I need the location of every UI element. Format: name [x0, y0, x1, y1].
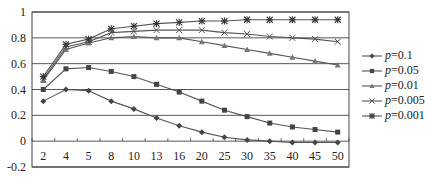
- star-marker: [130, 23, 137, 30]
- square-marker: [335, 130, 340, 135]
- legend-label-value: =0.001: [391, 108, 425, 123]
- star-marker: [108, 25, 115, 32]
- square-marker: [109, 69, 114, 74]
- diamond-marker: [289, 139, 295, 145]
- x-tick-label: 25: [218, 149, 230, 163]
- y-tick-label: 0.4: [11, 83, 26, 97]
- triangle-icon: [362, 81, 382, 91]
- diamond-marker: [40, 98, 46, 104]
- square-marker: [267, 121, 272, 126]
- star-marker: [85, 36, 92, 43]
- diamond-marker: [63, 87, 69, 93]
- diamond-marker: [369, 53, 374, 58]
- x-tick-label: 50: [332, 149, 344, 163]
- x-tick-label: 40: [286, 149, 298, 163]
- x-tick-label: 2: [40, 149, 46, 163]
- square-marker: [290, 124, 295, 129]
- star-marker: [266, 16, 273, 23]
- x-tick-label: 30: [241, 149, 253, 163]
- y-tick-label: 0: [20, 134, 26, 148]
- star-marker: [198, 18, 205, 25]
- legend: p=0.1p=0.05p=0.01p=0.005p=0.001: [362, 48, 425, 123]
- x-tick-label: 8: [108, 149, 114, 163]
- legend-item: p=0.005: [362, 93, 425, 108]
- legend-item: p=0.001: [362, 108, 425, 123]
- square-marker: [199, 99, 204, 104]
- diamond-marker: [108, 98, 114, 104]
- x-axis-tick-labels: 245810131620253035404550: [40, 149, 343, 163]
- star-marker: [176, 19, 183, 26]
- diamond-marker: [267, 138, 273, 144]
- x-tick-label: 45: [309, 149, 321, 163]
- y-tick-label: -0.2: [7, 160, 26, 174]
- diamond-marker: [312, 139, 318, 145]
- square-marker: [86, 65, 91, 70]
- series-lines: [40, 16, 341, 145]
- star-marker: [40, 73, 47, 80]
- square-marker: [370, 68, 374, 72]
- star-icon: [362, 111, 382, 121]
- x-tick-label: 35: [264, 149, 276, 163]
- diamond-marker: [154, 115, 160, 121]
- legend-item: p=0.1: [362, 48, 425, 63]
- gridlines: [32, 12, 349, 167]
- y-tick-label: 1: [20, 5, 26, 19]
- square-marker: [177, 90, 182, 95]
- series-line: [43, 68, 337, 133]
- star-marker: [312, 16, 319, 23]
- legend-item: p=0.05: [362, 63, 425, 78]
- diamond-marker: [221, 134, 227, 140]
- legend-item: p=0.01: [362, 78, 425, 93]
- star-marker: [62, 41, 69, 48]
- series-p-0-05: [41, 65, 340, 135]
- legend-label-value: =0.005: [391, 93, 425, 108]
- x-tick-label: 4: [63, 149, 69, 163]
- square-icon: [362, 66, 382, 76]
- x-tick-label: 10: [128, 149, 140, 163]
- star-marker: [369, 112, 375, 118]
- legend-label-value: =0.01: [391, 78, 419, 93]
- star-marker: [244, 16, 251, 23]
- square-marker: [222, 108, 227, 113]
- square-marker: [154, 82, 159, 87]
- series-p-0-01: [40, 34, 340, 83]
- y-axis-tick-labels: 10.80.60.40.20-0.2: [7, 5, 26, 174]
- diamond-marker: [199, 129, 205, 135]
- x-tick-label: 13: [151, 149, 163, 163]
- star-marker: [221, 18, 228, 25]
- diamond-marker: [176, 123, 182, 129]
- y-tick-label: 0.2: [11, 108, 26, 122]
- x-tick-label: 16: [173, 149, 185, 163]
- diamond-marker: [131, 106, 137, 112]
- diamond-marker: [244, 137, 250, 143]
- series-p-0-005: [40, 27, 340, 82]
- legend-label-value: =0.05: [391, 63, 419, 78]
- square-marker: [245, 114, 250, 119]
- series-line: [43, 90, 337, 143]
- x-tick-label: 5: [86, 149, 92, 163]
- square-marker: [313, 127, 318, 132]
- square-marker: [63, 66, 68, 71]
- series-p-0-1: [40, 87, 340, 146]
- star-marker: [334, 16, 341, 23]
- diamond-marker: [335, 139, 341, 145]
- diamond-marker: [86, 88, 92, 94]
- star-marker: [289, 16, 296, 23]
- legend-label-value: =0.1: [391, 48, 413, 63]
- square-marker: [131, 74, 136, 79]
- diamond-icon: [362, 51, 382, 61]
- x-tick-label: 20: [196, 149, 208, 163]
- y-tick-label: 0.6: [11, 57, 26, 71]
- series-p-0-001: [40, 16, 341, 80]
- x-icon: [362, 96, 382, 106]
- square-marker: [41, 87, 46, 92]
- star-marker: [153, 20, 160, 27]
- y-tick-label: 0.8: [11, 31, 26, 45]
